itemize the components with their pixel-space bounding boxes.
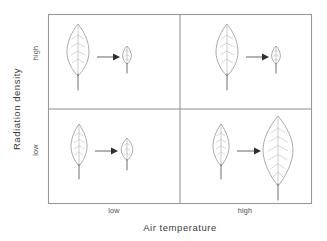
y-axis-tick-low: low (31, 144, 40, 156)
panel-top-right-arrow (246, 54, 269, 61)
x-axis: low high Air temperature (108, 206, 252, 233)
panel-top-right-end-leaf (272, 46, 281, 73)
panel-bottom-left-start-leaf (71, 124, 87, 179)
y-axis: Radiation density high low (11, 46, 40, 156)
x-axis-tick-high: high (238, 206, 252, 215)
quadrant-diagram-svg: Radiation density high low low high Air … (0, 0, 327, 241)
panel-bottom-right-end-leaf (263, 116, 293, 200)
panel-bottom-right (213, 116, 293, 200)
x-axis-tick-low: low (108, 206, 120, 215)
y-axis-title: Radiation density (11, 68, 22, 150)
panel-bottom-right-start-leaf (213, 124, 229, 179)
panel-top-left (67, 24, 131, 90)
panel-top-left-end-leaf (123, 46, 132, 73)
y-axis-tick-high: high (31, 46, 40, 60)
panel-top-right (216, 24, 280, 90)
panel-top-left-arrow (97, 54, 120, 61)
panel-top-left-start-leaf (67, 24, 89, 90)
figure-container: Radiation density high low low high Air … (0, 0, 327, 241)
panel-bottom-left-arrow (95, 148, 118, 155)
x-axis-title: Air temperature (143, 222, 217, 233)
panel-bottom-left (71, 124, 133, 179)
panel-bottom-right-arrow (237, 148, 261, 155)
panel-top-right-start-leaf (216, 24, 238, 90)
panel-bottom-left-end-leaf (121, 138, 133, 170)
